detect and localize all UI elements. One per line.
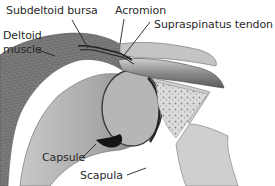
label-acromion: Acromion bbox=[115, 5, 166, 17]
label-scapula: Scapula bbox=[80, 170, 123, 182]
label-deltoid-muscle-line1: Deltoid bbox=[3, 30, 42, 42]
label-deltoid-muscle-line2: muscle bbox=[3, 44, 42, 56]
label-subdeltoid-bursa: Subdeltoid bursa bbox=[6, 5, 98, 17]
humeral-head-shape bbox=[102, 70, 162, 146]
label-supraspinatus-tendon: Supraspinatus tendon bbox=[154, 19, 273, 31]
label-capsule: Capsule bbox=[42, 152, 85, 164]
shoulder-anatomy-figure: Subdeltoid bursa Acromion Supraspinatus … bbox=[0, 0, 275, 186]
